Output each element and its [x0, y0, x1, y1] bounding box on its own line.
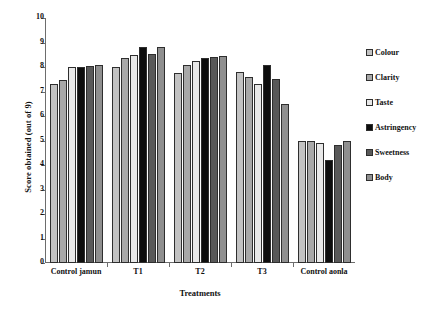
bar — [219, 56, 227, 263]
y-tick-label: 7 — [4, 86, 44, 95]
legend-swatch-icon — [366, 99, 373, 106]
bar — [343, 141, 351, 264]
bar-group — [45, 18, 107, 263]
bar — [281, 104, 289, 263]
legend-item-label: Colour — [375, 49, 399, 57]
x-tick — [169, 263, 170, 267]
bar-group — [107, 18, 169, 263]
y-tick-label: 9 — [4, 37, 44, 46]
bar — [192, 61, 200, 263]
y-tick-label: 8 — [4, 61, 44, 70]
x-tick — [107, 263, 108, 267]
legend-swatch-icon — [366, 174, 373, 181]
legend-item[interactable]: Body — [366, 165, 432, 190]
bar — [316, 143, 324, 263]
x-tick — [231, 263, 232, 267]
x-tick — [293, 263, 294, 267]
y-tick-label: 1 — [4, 233, 44, 242]
bar — [236, 72, 244, 263]
legend-item[interactable]: Astringency — [366, 115, 432, 140]
bar — [121, 58, 129, 263]
bar — [272, 79, 280, 263]
y-tick-label: 4 — [4, 159, 44, 168]
bar — [210, 57, 218, 263]
bar — [59, 80, 67, 263]
bar-group — [231, 18, 293, 263]
x-tick-label: T2 — [195, 267, 204, 276]
bar — [68, 67, 76, 263]
y-tick-label: 3 — [4, 184, 44, 193]
legend-swatch-icon — [366, 49, 373, 56]
bar — [334, 145, 342, 263]
plot-area: 012345678910 Control jamunT1T2T3Control … — [45, 18, 355, 263]
y-tick-label: 2 — [4, 208, 44, 217]
bar — [77, 67, 85, 263]
legend-item-label: Body — [375, 174, 393, 182]
bar-group — [293, 18, 355, 263]
bar — [183, 65, 191, 263]
bar — [157, 47, 165, 263]
bar-chart: Score obtained (out of 9) 012345678910 C… — [0, 0, 433, 315]
bar — [325, 160, 333, 263]
legend-item-label: Astringency — [375, 124, 416, 132]
legend-item-label: Taste — [375, 99, 393, 107]
y-tick-label: 0 — [4, 257, 44, 266]
x-tick-label: T1 — [133, 267, 142, 276]
bar-group — [169, 18, 231, 263]
legend-swatch-icon — [366, 124, 373, 131]
bar — [86, 66, 94, 263]
bar — [263, 65, 271, 263]
bar — [148, 54, 156, 263]
bar — [174, 73, 182, 263]
legend-item-label: Sweetness — [375, 149, 409, 157]
bar — [95, 65, 103, 263]
y-tick-label: 6 — [4, 110, 44, 119]
x-tick-label: Control jamun — [51, 267, 102, 276]
bar — [130, 55, 138, 263]
bar — [112, 67, 120, 263]
legend-swatch-icon — [366, 74, 373, 81]
legend-item[interactable]: Taste — [366, 90, 432, 115]
x-tick-label: Control aonla — [300, 267, 347, 276]
bar — [201, 58, 209, 263]
legend-swatch-icon — [366, 149, 373, 156]
legend-item[interactable]: Sweetness — [366, 140, 432, 165]
legend: ColourClarityTasteAstringencySweetnessBo… — [366, 40, 432, 190]
x-tick-label: T3 — [257, 267, 266, 276]
bar — [254, 84, 262, 263]
legend-item[interactable]: Colour — [366, 40, 432, 65]
legend-item[interactable]: Clarity — [366, 65, 432, 90]
bar — [139, 47, 147, 263]
legend-item-label: Clarity — [375, 74, 399, 82]
bar — [245, 77, 253, 263]
bar — [298, 141, 306, 264]
bar — [50, 84, 58, 263]
bar — [307, 141, 315, 264]
x-axis-title: Treatments — [45, 288, 355, 298]
y-tick-label: 10 — [4, 12, 44, 21]
y-tick-label: 5 — [4, 135, 44, 144]
